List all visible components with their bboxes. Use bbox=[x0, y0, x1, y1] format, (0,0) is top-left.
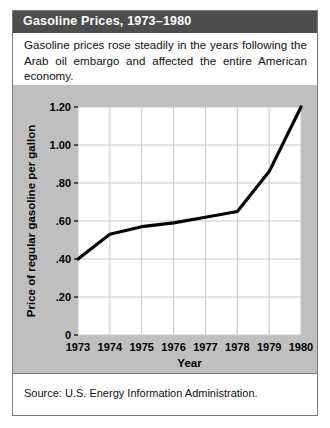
y-axis: 0.20.40.60.801.001.20 bbox=[50, 101, 78, 341]
x-tick-label: 1975 bbox=[129, 341, 153, 353]
figure-title-bar: Gasoline Prices, 1973–1980 bbox=[13, 11, 317, 33]
y-axis-title: Price of regular gasoline per gallon bbox=[25, 125, 37, 317]
y-tick-label: 1.00 bbox=[50, 139, 71, 151]
x-tick-label: 1979 bbox=[257, 341, 281, 353]
chart-area: 0.20.40.60.801.001.20Price of regular ga… bbox=[13, 85, 317, 375]
x-tick-label: 1976 bbox=[161, 341, 185, 353]
x-tick-label: 1978 bbox=[225, 341, 249, 353]
figure-description: Gasoline prices rose steadily in the yea… bbox=[24, 37, 307, 84]
source-bar: Source: U.S. Energy Information Administ… bbox=[13, 373, 317, 415]
y-tick-label: .80 bbox=[56, 177, 71, 189]
y-tick-label: .20 bbox=[56, 291, 71, 303]
y-tick-label: .40 bbox=[56, 253, 71, 265]
x-tick-label: 1974 bbox=[98, 341, 123, 353]
figure-title: Gasoline Prices, 1973–1980 bbox=[23, 14, 192, 28]
y-tick-label: .60 bbox=[56, 215, 71, 227]
x-axis: 19731974197519761977197819791980 bbox=[66, 341, 313, 353]
figure-card: Gasoline Prices, 1973–1980 Gasoline pric… bbox=[12, 10, 318, 416]
line-chart: 0.20.40.60.801.001.20Price of regular ga… bbox=[13, 85, 319, 375]
y-tick-label: 0 bbox=[65, 329, 71, 341]
x-tick-label: 1973 bbox=[66, 341, 90, 353]
source-citation: Source: U.S. Energy Information Administ… bbox=[24, 387, 258, 399]
x-tick-label: 1977 bbox=[193, 341, 217, 353]
y-tick-label: 1.20 bbox=[50, 101, 71, 113]
x-axis-title: Year bbox=[177, 357, 202, 369]
x-tick-label: 1980 bbox=[289, 341, 313, 353]
